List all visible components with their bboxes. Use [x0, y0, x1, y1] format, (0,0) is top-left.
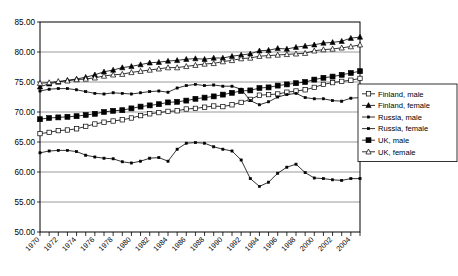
- marker-3-30: [313, 98, 315, 100]
- marker-2-5: [85, 154, 87, 156]
- marker-0-24: [257, 93, 261, 97]
- marker-4-2: [56, 115, 61, 120]
- marker-3-26: [277, 96, 279, 98]
- marker-4-13: [156, 102, 161, 107]
- marker-legend-3: [367, 128, 369, 130]
- marker-4-29: [303, 80, 308, 85]
- marker-0-1: [47, 130, 51, 134]
- marker-0-8: [111, 119, 115, 123]
- x-axis-tick-label: 1976: [78, 235, 96, 253]
- marker-4-6: [92, 111, 97, 116]
- x-axis-tick-label: 1988: [188, 235, 206, 253]
- marker-3-11: [139, 92, 141, 94]
- marker-2-25: [267, 181, 269, 183]
- marker-3-19: [213, 84, 215, 86]
- marker-3-12: [149, 91, 151, 93]
- marker-0-15: [175, 109, 179, 113]
- y-axis-tick-label: 65.00: [15, 138, 36, 147]
- x-axis-tick-label: 1998: [279, 235, 297, 253]
- marker-1-26: [275, 46, 280, 51]
- marker-4-12: [147, 103, 152, 108]
- marker-3-3: [66, 88, 68, 90]
- marker-4-21: [230, 90, 235, 95]
- marker-0-9: [120, 118, 124, 122]
- marker-2-28: [295, 163, 297, 165]
- marker-4-5: [83, 113, 88, 118]
- marker-3-24: [258, 104, 260, 106]
- y-axis-tick-label: 50.00: [15, 228, 36, 237]
- marker-2-17: [194, 142, 196, 144]
- marker-0-14: [166, 109, 170, 113]
- marker-0-6: [93, 122, 97, 126]
- x-axis-tick-label: 2002: [316, 235, 334, 253]
- marker-2-20: [222, 148, 224, 150]
- marker-4-33: [339, 72, 344, 77]
- marker-2-35: [359, 178, 361, 180]
- marker-3-7: [103, 93, 105, 95]
- marker-0-16: [184, 107, 188, 111]
- marker-3-21: [231, 85, 233, 87]
- marker-2-33: [341, 179, 343, 181]
- marker-3-2: [57, 88, 59, 90]
- marker-4-9: [120, 108, 125, 113]
- legend-label-5: UK, female: [378, 148, 416, 157]
- marker-0-10: [129, 116, 133, 120]
- marker-4-26: [275, 83, 280, 88]
- marker-3-25: [267, 101, 269, 103]
- marker-0-7: [102, 120, 106, 124]
- x-axis-tick-label: 1986: [170, 235, 188, 253]
- marker-3-1: [48, 88, 50, 90]
- marker-0-30: [312, 85, 316, 89]
- marker-4-35: [358, 69, 363, 74]
- y-axis-tick-label: 60.00: [15, 168, 36, 177]
- marker-3-20: [222, 85, 224, 87]
- marker-2-10: [130, 162, 132, 164]
- marker-2-4: [75, 151, 77, 153]
- marker-0-17: [193, 106, 197, 110]
- marker-2-34: [350, 178, 352, 180]
- marker-4-24: [257, 86, 262, 91]
- marker-3-33: [341, 100, 343, 102]
- legend-label-1: Finland, female: [378, 101, 430, 110]
- marker-2-26: [277, 172, 279, 174]
- y-axis-tick-label: 55.00: [15, 198, 36, 207]
- marker-3-27: [286, 94, 288, 96]
- marker-0-22: [239, 100, 243, 104]
- x-axis-tick-label: 1980: [115, 235, 133, 253]
- marker-3-16: [185, 85, 187, 87]
- marker-3-5: [85, 91, 87, 93]
- marker-2-27: [286, 166, 288, 168]
- marker-2-18: [203, 142, 205, 144]
- x-axis-tick-label: 1984: [151, 235, 169, 253]
- marker-4-1: [47, 116, 52, 121]
- marker-4-34: [348, 71, 353, 76]
- marker-4-28: [294, 81, 299, 86]
- marker-4-8: [111, 108, 116, 113]
- x-axis-tick-label: 2000: [298, 235, 316, 253]
- marker-3-15: [176, 87, 178, 89]
- legend-label-0: Finland, male: [378, 90, 424, 99]
- legend-label-2: Russia, male: [378, 113, 422, 122]
- legend-label-3: Russia, female: [378, 124, 428, 133]
- x-axis-tick-label: 1972: [42, 235, 60, 253]
- marker-5-35: [357, 42, 362, 47]
- marker-2-31: [322, 178, 324, 180]
- marker-0-18: [202, 105, 206, 109]
- marker-4-25: [266, 85, 271, 90]
- marker-0-11: [138, 113, 142, 117]
- marker-2-22: [240, 159, 242, 161]
- marker-2-14: [167, 160, 169, 162]
- marker-0-33: [340, 79, 344, 83]
- marker-legend-2: [367, 116, 369, 118]
- x-axis-tick-label: 1996: [261, 235, 279, 253]
- marker-3-4: [75, 89, 77, 91]
- marker-4-18: [202, 95, 207, 100]
- marker-2-29: [304, 172, 306, 174]
- marker-2-13: [158, 157, 160, 159]
- marker-2-8: [112, 158, 114, 160]
- marker-4-30: [312, 77, 317, 82]
- marker-0-26: [276, 92, 280, 96]
- series-line-2: [40, 143, 360, 187]
- marker-0-31: [321, 82, 325, 86]
- marker-2-6: [94, 156, 96, 158]
